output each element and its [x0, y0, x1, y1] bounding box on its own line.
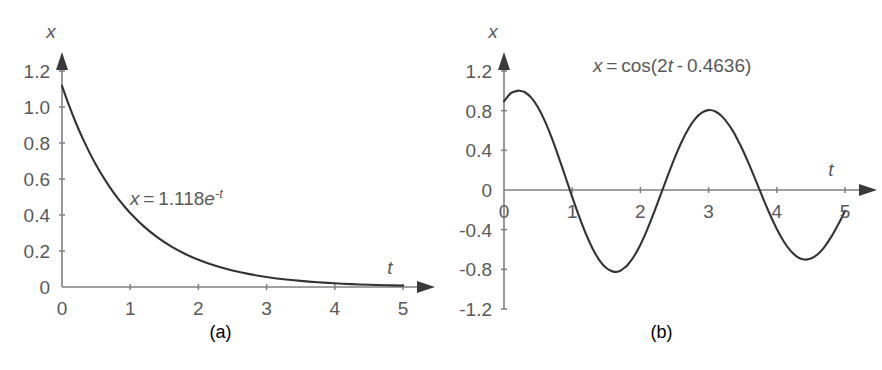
- figure-container: 01234500.20.40.60.81.01.2 x t x = 1.118e…: [0, 0, 882, 370]
- chart-a-caption-wrapper: (a): [0, 322, 441, 343]
- chart-b-ytick-3: 0: [481, 180, 492, 201]
- chart-b-caption-wrapper: (b): [441, 322, 882, 343]
- chart-b-xtick-4: 4: [772, 201, 783, 222]
- chart-a-series-0: [62, 86, 403, 286]
- chart-a-curve: [62, 86, 403, 286]
- chart-a-x-axis-label: t: [387, 257, 393, 278]
- chart-b-svg: 012345-1.2-0.8-0.400.40.81.2 x t x = cos…: [441, 0, 882, 370]
- chart-b-curve: [504, 91, 845, 272]
- chart-panel-a: 01234500.20.40.60.81.01.2 x t x = 1.118e…: [0, 0, 441, 370]
- chart-a-xtick-1: 1: [125, 298, 136, 319]
- chart-a-equation-annotation: x = 1.118e-t: [129, 186, 224, 209]
- chart-a-y-axis-label: x: [45, 21, 57, 42]
- chart-b-caption: (b): [651, 322, 673, 342]
- chart-a-ytick-1: 0.2: [24, 241, 50, 262]
- chart-b-ytick-2: -0.4: [459, 220, 492, 241]
- chart-a-xtick-4: 4: [330, 298, 341, 319]
- chart-a-axes: [56, 52, 435, 293]
- chart-b-series-0: [504, 91, 845, 272]
- chart-b-ytick-5: 0.8: [466, 101, 492, 122]
- chart-b-y-axis-label: x: [487, 21, 499, 42]
- chart-b-ytick-0: -1.2: [459, 299, 492, 320]
- chart-a-xtick-2: 2: [193, 298, 204, 319]
- chart-a-ticks: [59, 71, 403, 290]
- chart-a-ytick-3: 0.6: [24, 169, 50, 190]
- chart-a-ytick-0: 0: [39, 277, 50, 298]
- chart-a-xtick-5: 5: [398, 298, 409, 319]
- chart-b-xtick-5: 5: [840, 201, 851, 222]
- chart-a-ytick-6: 1.2: [24, 61, 50, 82]
- chart-a-ytick-4: 0.8: [24, 133, 50, 154]
- chart-b-ytick-4: 0.4: [466, 140, 493, 161]
- chart-panel-b: 012345-1.2-0.8-0.400.40.81.2 x t x = cos…: [441, 0, 882, 370]
- chart-b-equation-annotation: x = cos(2t - 0.4636): [592, 55, 751, 76]
- chart-b-xtick-3: 3: [703, 201, 714, 222]
- chart-b-x-axis-label: t: [828, 159, 834, 180]
- chart-a-xtick-3: 3: [261, 298, 272, 319]
- chart-a-caption: (a): [210, 322, 232, 342]
- chart-a-ytick-2: 0.4: [24, 205, 51, 226]
- chart-b-axes: [498, 52, 877, 309]
- chart-b-xtick-2: 2: [635, 201, 646, 222]
- chart-b-ytick-1: -0.8: [459, 259, 492, 280]
- chart-b-xtick-0: 0: [499, 201, 510, 222]
- chart-a-svg: 01234500.20.40.60.81.01.2 x t x = 1.118e…: [0, 0, 441, 370]
- chart-b-ytick-6: 1.2: [466, 61, 492, 82]
- chart-b-xtick-1: 1: [567, 201, 578, 222]
- chart-a-xtick-0: 0: [57, 298, 68, 319]
- chart-a-ytick-5: 1.0: [24, 97, 50, 118]
